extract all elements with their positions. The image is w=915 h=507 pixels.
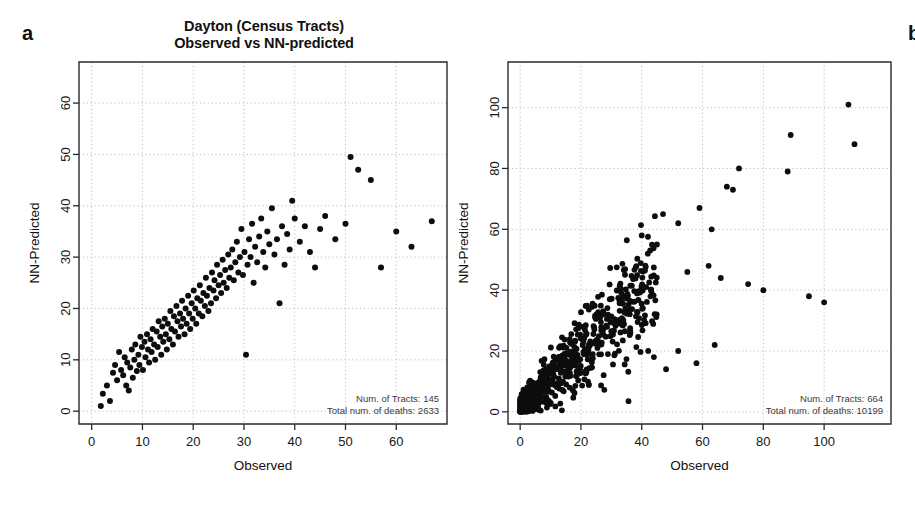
svg-text:50: 50 xyxy=(58,147,73,161)
svg-text:40: 40 xyxy=(635,434,649,449)
svg-text:NN-Predicted: NN-Predicted xyxy=(27,202,42,283)
svg-text:60: 60 xyxy=(695,434,709,449)
svg-text:20: 20 xyxy=(487,344,502,358)
scatter-plot-b: 020406080100020406080100ObservedNN-Predi… xyxy=(457,0,915,507)
svg-text:Num. of Tracts: 664: Num. of Tracts: 664 xyxy=(800,393,883,404)
svg-text:40: 40 xyxy=(58,199,73,213)
svg-text:30: 30 xyxy=(58,250,73,264)
svg-text:10: 10 xyxy=(58,353,73,367)
svg-text:Total num. of deaths: 10199: Total num. of deaths: 10199 xyxy=(766,405,883,416)
svg-text:Observed: Observed xyxy=(234,458,293,473)
svg-text:80: 80 xyxy=(487,161,502,175)
figure-root: a Dayton (Census Tracts) Observed vs NN-… xyxy=(0,0,915,507)
svg-text:10: 10 xyxy=(135,434,149,449)
svg-text:30: 30 xyxy=(237,434,251,449)
svg-text:100: 100 xyxy=(813,434,835,449)
svg-text:0: 0 xyxy=(58,408,73,415)
svg-text:60: 60 xyxy=(58,96,73,110)
svg-text:NN-Predicted: NN-Predicted xyxy=(457,202,471,283)
scatter-plot-a: 01020304050600102030405060ObservedNN-Pre… xyxy=(0,0,458,507)
svg-text:0: 0 xyxy=(487,408,502,415)
svg-text:60: 60 xyxy=(487,222,502,236)
svg-text:Total num. of deaths: 2633: Total num. of deaths: 2633 xyxy=(327,405,439,416)
panel-a: a Dayton (Census Tracts) Observed vs NN-… xyxy=(0,0,458,507)
svg-text:20: 20 xyxy=(58,301,73,315)
svg-text:Num. of Tracts: 145: Num. of Tracts: 145 xyxy=(356,393,439,404)
svg-text:0: 0 xyxy=(88,434,95,449)
svg-text:0: 0 xyxy=(517,434,524,449)
svg-text:20: 20 xyxy=(574,434,588,449)
panel-b: b Phoenix (Census Tracts) Observed vs NN… xyxy=(457,0,915,507)
svg-text:60: 60 xyxy=(389,434,403,449)
svg-text:Observed: Observed xyxy=(670,458,729,473)
svg-text:50: 50 xyxy=(338,434,352,449)
svg-text:40: 40 xyxy=(287,434,301,449)
svg-text:80: 80 xyxy=(756,434,770,449)
svg-text:100: 100 xyxy=(487,97,502,119)
svg-text:20: 20 xyxy=(186,434,200,449)
svg-text:40: 40 xyxy=(487,283,502,297)
